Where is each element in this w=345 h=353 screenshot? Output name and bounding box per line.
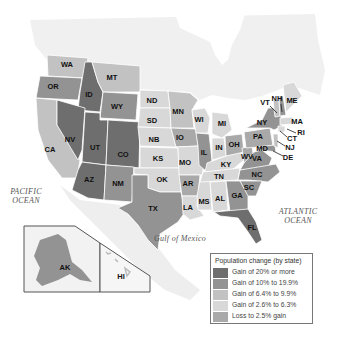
state-label-ok: OK (156, 176, 167, 184)
legend-label: Gain of 6.4% to 9.9% (232, 290, 296, 297)
pacific-line2: OCEAN (10, 196, 42, 205)
state-label-de: DE (283, 154, 293, 162)
state-label-fl: FL (247, 224, 256, 232)
state-label-ca: CA (45, 146, 56, 154)
state-label-md: MD (256, 145, 268, 153)
legend-item-gain-2-6: Gain of 2.6% to 6.3% (213, 300, 311, 311)
state-ut (82, 112, 108, 165)
state-label-il: IL (201, 149, 208, 157)
state-label-ut: UT (90, 144, 100, 152)
state-label-id: ID (85, 91, 93, 99)
state-label-la: LA (183, 204, 193, 212)
legend-swatch (213, 278, 228, 289)
state-label-mi: MI (218, 120, 226, 128)
legend-label: Gain of 20% or more (232, 268, 295, 275)
pacific-line1: PACIFIC (10, 187, 42, 196)
state-or (36, 76, 82, 100)
state-ct (278, 126, 285, 132)
state-label-va: VA (252, 155, 262, 163)
legend-item-loss-to-2-5: Loss to 2.5% gain (213, 311, 311, 322)
state-label-io: IO (176, 134, 184, 142)
state-label-ri: RI (297, 129, 305, 137)
state-label-sc: SC (244, 184, 254, 192)
state-label-nv: NV (65, 136, 75, 144)
ri-leader-line (287, 129, 296, 133)
state-label-wi: WI (194, 116, 203, 124)
pacific-ocean-label: PACIFIC OCEAN (10, 187, 42, 205)
legend-label: Gain of 10% to 19.9% (232, 279, 298, 286)
atlantic-ocean-label: ATLANTIC OCEAN (279, 207, 318, 225)
state-label-ms: MS (198, 198, 209, 206)
state-label-me: ME (286, 97, 297, 105)
legend-swatch (213, 267, 228, 278)
state-label-ny: NY (257, 119, 267, 127)
state-label-ar: AR (183, 180, 194, 188)
state-label-al: AL (215, 195, 225, 203)
atlantic-line1: ATLANTIC (279, 207, 318, 216)
legend-item-gain-6-9: Gain of 6.4% to 9.9% (213, 289, 311, 300)
state-label-mo: MO (179, 159, 191, 167)
state-label-ga: GA (231, 192, 242, 200)
state-label-ak: AK (60, 264, 71, 272)
legend-label: Gain of 2.6% to 6.3% (232, 301, 296, 308)
gulf-of-mexico-label: Gulf of Mexico (154, 234, 206, 243)
state-label-co: CO (117, 151, 128, 159)
state-label-sd: SD (147, 117, 157, 125)
legend-label: Loss to 2.5% gain (232, 312, 286, 319)
population-change-map: PACIFIC OCEAN ATLANTIC OCEAN Gulf of Mex… (0, 0, 345, 353)
state-label-mt: MT (107, 74, 118, 82)
state-label-nj: NJ (285, 144, 295, 152)
state-label-tn: TN (214, 173, 224, 181)
state-label-ma: MA (291, 118, 303, 126)
state-label-ky: KY (221, 161, 231, 169)
state-label-nc: NC (252, 171, 263, 179)
state-label-ks: KS (153, 155, 163, 163)
legend-title: Population change (by state) (215, 257, 302, 264)
state-label-nm: NM (112, 180, 124, 188)
atlantic-line2: OCEAN (279, 216, 318, 225)
state-label-wy: WY (111, 103, 123, 111)
state-label-nh: NH (272, 95, 283, 103)
state-co (106, 120, 140, 168)
state-label-nd: ND (147, 97, 158, 105)
state-label-hi: HI (117, 273, 125, 281)
legend: Population change (by state) Gain of 20%… (210, 253, 313, 324)
legend-swatch (213, 311, 228, 322)
legend-item-gain-10-19: Gain of 10% to 19.9% (213, 278, 311, 289)
state-label-or: OR (47, 83, 58, 91)
state-label-az: AZ (84, 176, 94, 184)
legend-swatch (213, 289, 228, 300)
state-label-in: IN (215, 144, 223, 152)
state-label-pa: PA (253, 133, 263, 141)
state-label-mn: MN (172, 108, 184, 116)
state-label-nb: NB (149, 136, 160, 144)
state-label-oh: OH (228, 141, 239, 149)
legend-swatch (213, 300, 228, 311)
state-label-vt: VT (260, 99, 270, 107)
state-label-wa: WA (61, 61, 73, 69)
state-label-tx: TX (148, 205, 158, 213)
legend-item-gain-20-plus: Gain of 20% or more (213, 267, 311, 278)
state-label-ct: CT (287, 135, 297, 143)
de-leader-line (273, 151, 283, 156)
